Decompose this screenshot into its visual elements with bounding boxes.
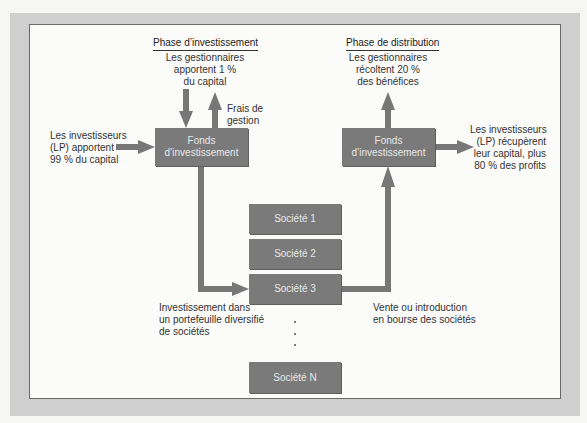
label-portfolio-investment: Investissement dans un portefeuille dive…	[159, 302, 264, 338]
ellipsis-dot	[294, 344, 296, 346]
label-managers-share: Les gestionnaires récoltent 20 % des bén…	[343, 52, 433, 88]
label-management-fees: Frais de gestion	[227, 103, 263, 127]
label-exit: Vente ou introduction en bourse des soci…	[373, 302, 476, 326]
label-managers-contribution: Les gestionnaires apportent 1 % du capit…	[160, 52, 250, 88]
company-box-1: Société 1	[249, 204, 341, 234]
label-investors-return: Les investisseurs (LP) récupèrent leur c…	[470, 124, 546, 172]
ellipsis-dot	[294, 333, 296, 335]
company-box-3: Société 3	[249, 274, 341, 304]
heading-investment-phase: Phase d’investissement	[153, 37, 258, 51]
ellipsis-dot	[294, 321, 296, 323]
fund-box-distribution: Fonds d’investissement	[342, 128, 435, 166]
company-box-n: Société N	[249, 362, 341, 393]
heading-distribution-phase: Phase de distribution	[346, 37, 439, 51]
label-investors-contribution: Les investisseurs (LP) apportent 99 % du…	[50, 130, 127, 166]
fund-box-investment: Fonds d’investissement	[155, 128, 248, 166]
company-box-2: Société 2	[249, 239, 341, 269]
